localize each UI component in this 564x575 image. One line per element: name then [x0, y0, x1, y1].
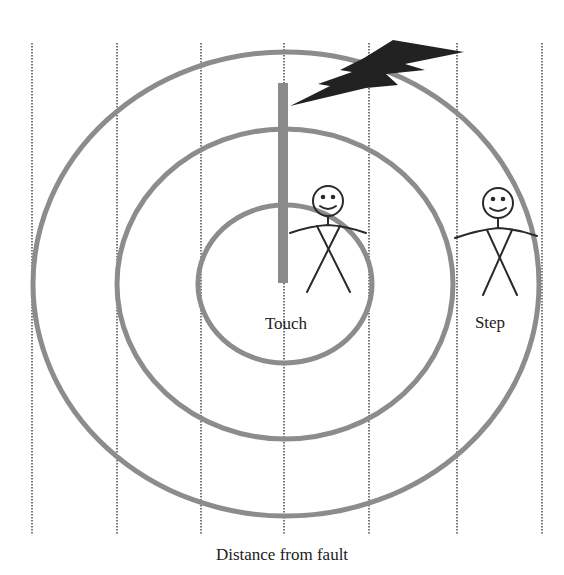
utility-pole — [278, 83, 288, 283]
touch-label: Touch — [265, 314, 308, 333]
caption: Distance from fault — [216, 545, 348, 564]
step-label: Step — [475, 313, 505, 332]
ground-potential-diagram: Touch Step Distance from fault — [0, 0, 564, 575]
